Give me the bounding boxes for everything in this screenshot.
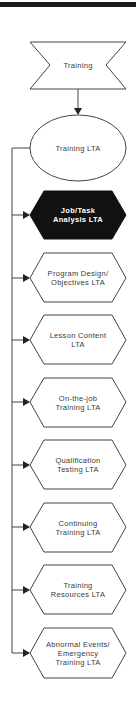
arrowhead-icon: [23, 649, 30, 657]
arrowhead-icon: [23, 398, 30, 406]
arrowhead-icon: [74, 108, 82, 115]
child-label-program-design: Program Design/ Objectives LTA: [40, 253, 116, 302]
child-label-on-the-job-training: On-the-job Training LTA: [40, 378, 116, 427]
root-label: Training: [50, 42, 106, 89]
child-label-training-resources: Training Resources LTA: [40, 565, 116, 614]
arrowhead-icon: [23, 336, 30, 344]
arrowhead-icon: [23, 586, 30, 594]
arrowhead-icon: [23, 274, 30, 282]
child-label-qualification-testing: Qualification Testing LTA: [40, 440, 116, 489]
child-label-continuing-training: Continuing Training LTA: [40, 503, 116, 552]
arrowhead-icon: [23, 211, 30, 219]
arrowhead-icon: [23, 461, 30, 469]
child-label-lesson-content: Lesson Content LTA: [40, 315, 116, 364]
child-label-abnormal-events: Abnormal Events/ Emergency Training LTA: [38, 628, 118, 678]
child-label-job-task-analysis: Job/Task Analysis LTA: [40, 191, 116, 239]
arrowhead-icon: [23, 523, 30, 531]
parent-label: Training LTA: [32, 115, 124, 181]
